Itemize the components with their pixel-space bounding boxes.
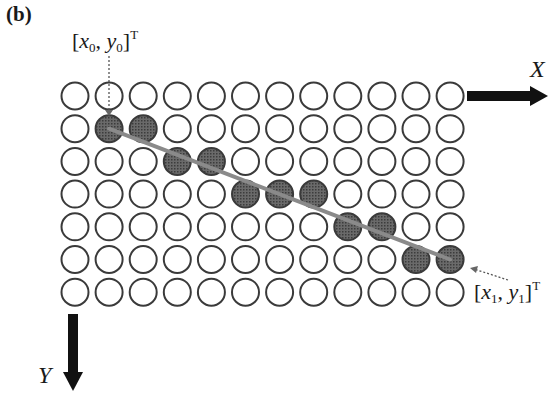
- empty-pixel: [437, 115, 464, 142]
- empty-pixel: [334, 148, 361, 175]
- empty-pixel: [96, 279, 123, 306]
- empty-pixel: [198, 83, 225, 110]
- empty-pixel: [198, 181, 225, 208]
- empty-pixel: [62, 213, 89, 240]
- empty-pixel: [232, 246, 259, 273]
- empty-pixel: [130, 83, 157, 110]
- empty-pixel: [403, 213, 430, 240]
- empty-pixel: [130, 181, 157, 208]
- pixel-grid-diagram: (b) [x0, y0]T [x1, y1: [0, 0, 560, 393]
- empty-pixel: [300, 115, 327, 142]
- empty-pixel: [198, 115, 225, 142]
- pixel-circles: [62, 83, 464, 306]
- empty-pixel: [368, 279, 395, 306]
- start-transpose: T: [130, 27, 138, 42]
- empty-pixel: [368, 148, 395, 175]
- empty-pixel: [437, 181, 464, 208]
- empty-pixel: [96, 148, 123, 175]
- empty-pixel: [300, 246, 327, 273]
- empty-pixel: [403, 148, 430, 175]
- empty-pixel: [62, 148, 89, 175]
- start-y-sub: 0: [116, 40, 123, 55]
- empty-pixel: [300, 279, 327, 306]
- empty-pixel: [96, 213, 123, 240]
- empty-pixel: [130, 246, 157, 273]
- empty-pixel: [164, 279, 191, 306]
- empty-pixel: [368, 246, 395, 273]
- empty-pixel: [232, 115, 259, 142]
- empty-pixel: [62, 115, 89, 142]
- empty-pixel: [62, 279, 89, 306]
- empty-pixel: [266, 213, 293, 240]
- end-point-label: [x1, y1]T: [474, 278, 540, 307]
- empty-pixel: [198, 213, 225, 240]
- empty-pixel: [334, 279, 361, 306]
- x-axis-arrow-icon: [467, 86, 548, 106]
- end-pointer-arrowhead-icon: [470, 266, 478, 273]
- empty-pixel: [437, 279, 464, 306]
- empty-pixel: [232, 83, 259, 110]
- empty-pixel: [232, 148, 259, 175]
- empty-pixel: [130, 279, 157, 306]
- end-x-var: x: [481, 279, 491, 304]
- empty-pixel: [437, 213, 464, 240]
- empty-pixel: [62, 246, 89, 273]
- empty-pixel: [62, 83, 89, 110]
- empty-pixel: [130, 213, 157, 240]
- empty-pixel: [437, 148, 464, 175]
- empty-pixel: [368, 181, 395, 208]
- empty-pixel: [164, 181, 191, 208]
- empty-pixel: [403, 181, 430, 208]
- empty-pixel: [266, 148, 293, 175]
- empty-pixel: [334, 115, 361, 142]
- end-x-sub: 1: [491, 291, 498, 306]
- empty-pixel: [198, 279, 225, 306]
- empty-pixel: [232, 279, 259, 306]
- empty-pixel: [266, 83, 293, 110]
- empty-pixel: [334, 246, 361, 273]
- end-transpose: T: [532, 278, 540, 293]
- empty-pixel: [403, 279, 430, 306]
- empty-pixel: [334, 181, 361, 208]
- pixel-grid: [0, 0, 560, 393]
- empty-pixel: [96, 181, 123, 208]
- empty-pixel: [164, 246, 191, 273]
- empty-pixel: [164, 213, 191, 240]
- empty-pixel: [300, 213, 327, 240]
- empty-pixel: [266, 279, 293, 306]
- empty-pixel: [266, 246, 293, 273]
- empty-pixel: [266, 115, 293, 142]
- empty-pixel: [334, 83, 361, 110]
- empty-pixel: [232, 213, 259, 240]
- empty-pixel: [300, 83, 327, 110]
- start-point-label: [x0, y0]T: [72, 27, 138, 56]
- empty-pixel: [300, 148, 327, 175]
- empty-pixel: [96, 246, 123, 273]
- empty-pixel: [62, 181, 89, 208]
- empty-pixel: [164, 83, 191, 110]
- start-x-sub: 0: [89, 40, 96, 55]
- x-axis-label: X: [530, 56, 545, 83]
- empty-pixel: [403, 115, 430, 142]
- empty-pixel: [368, 115, 395, 142]
- empty-pixel: [437, 83, 464, 110]
- empty-pixel: [403, 83, 430, 110]
- y-axis-arrow-icon: [63, 314, 83, 391]
- empty-pixel: [198, 246, 225, 273]
- y-axis-label: Y: [38, 362, 51, 389]
- empty-pixel: [368, 83, 395, 110]
- end-y-var: y: [509, 279, 519, 304]
- empty-pixel: [130, 148, 157, 175]
- start-y-var: y: [107, 28, 117, 53]
- start-x-var: x: [79, 28, 89, 53]
- empty-pixel: [164, 115, 191, 142]
- end-y-sub: 1: [518, 291, 525, 306]
